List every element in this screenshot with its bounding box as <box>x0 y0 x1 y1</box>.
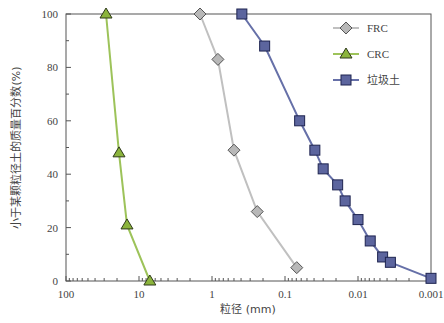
square-marker <box>353 215 363 225</box>
square-marker <box>365 236 375 246</box>
diamond-marker <box>291 262 303 274</box>
y-axis-title: 小于某颗粒径土的质量百分数(%) <box>9 66 23 228</box>
x-tick-label: 1 <box>209 288 215 300</box>
square-marker <box>295 116 305 126</box>
square-marker <box>237 9 247 19</box>
x-tick-label: 10 <box>134 288 146 300</box>
square-marker <box>318 164 328 174</box>
x-tick-label: 0.001 <box>419 288 444 300</box>
x-tick-label: 100 <box>58 288 75 300</box>
grain-size-chart: 0204060801001001010.10.010.001粒径 (mm)小于某… <box>0 0 444 323</box>
x-axis-title: 粒径 (mm) <box>220 302 276 316</box>
series-line <box>200 14 297 268</box>
triangle-marker <box>113 147 125 157</box>
triangle-marker <box>100 8 112 18</box>
diamond-marker <box>212 53 224 65</box>
x-tick-label: 0.1 <box>278 288 292 300</box>
series-triangle <box>100 8 156 285</box>
series-square <box>237 9 436 283</box>
x-tick-label: 0.01 <box>348 288 367 300</box>
series-diamond <box>194 8 303 274</box>
square-marker <box>340 196 350 206</box>
triangle-marker <box>121 219 133 229</box>
square-marker <box>260 41 270 51</box>
legend-square-icon <box>341 75 351 85</box>
legend-label: 垃圾土 <box>367 73 400 86</box>
square-marker <box>310 145 320 155</box>
legend-diamond-icon <box>340 22 352 34</box>
legend: FRCCRC垃圾土 <box>333 22 400 86</box>
diamond-marker <box>251 206 263 218</box>
y-tick-label: 40 <box>47 168 59 180</box>
y-tick-label: 0 <box>53 275 59 287</box>
y-tick-label: 60 <box>47 115 59 127</box>
legend-label: FRC <box>367 22 388 34</box>
square-marker <box>333 180 343 190</box>
square-marker <box>426 273 436 283</box>
y-tick-label: 20 <box>47 222 59 234</box>
diamond-marker <box>228 144 240 156</box>
diamond-marker <box>194 8 206 20</box>
x-axis: 1001010.10.010.001 <box>58 276 444 300</box>
series-line <box>106 14 150 281</box>
legend-label: CRC <box>367 48 389 60</box>
y-tick-label: 80 <box>47 61 59 73</box>
square-marker <box>385 257 395 267</box>
y-axis: 020406080100 <box>42 8 72 287</box>
y-tick-label: 100 <box>42 8 59 20</box>
